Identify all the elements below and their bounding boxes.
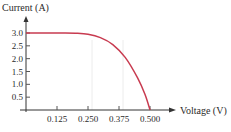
- x-tick-label: 0.250: [78, 114, 99, 124]
- y-ticks: 0.51.01.52.02.53.0: [12, 28, 30, 102]
- series-line: [26, 33, 150, 110]
- y-axis-title: Current (A): [2, 2, 49, 14]
- y-tick-label: 2.5: [12, 41, 24, 51]
- chart: Current (A) Voltage (V) 0.1250.2500.3750…: [0, 0, 231, 132]
- y-tick-label: 1.5: [12, 67, 24, 77]
- x-axis-arrow-icon: [169, 108, 176, 113]
- x-tick-label: 0.125: [47, 114, 68, 124]
- y-axis-arrow-icon: [24, 16, 29, 22]
- y-tick-label: 3.0: [12, 28, 24, 38]
- series: [26, 33, 150, 110]
- x-axis-title: Voltage (V): [180, 105, 227, 117]
- x-tick-label: 0.500: [140, 114, 161, 124]
- y-tick-label: 2.0: [12, 54, 24, 64]
- y-tick-label: 1.0: [12, 79, 24, 89]
- x-tick-label: 0.375: [109, 114, 130, 124]
- x-ticks: 0.1250.2500.3750.500: [47, 106, 161, 124]
- y-tick-label: 0.5: [12, 92, 24, 102]
